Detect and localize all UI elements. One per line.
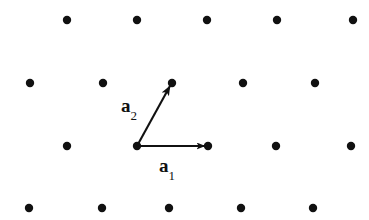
lattice-point <box>311 79 319 87</box>
lattice-point <box>204 142 212 150</box>
lattice-point <box>25 204 33 212</box>
lattice-point <box>349 16 357 24</box>
lattice-point <box>239 79 247 87</box>
vector-label-a1-symbol: a <box>159 155 169 176</box>
vector-label-a2-subscript: 2 <box>131 108 138 123</box>
lattice-point <box>237 204 245 212</box>
lattice-point <box>63 16 71 24</box>
vector-label-a2-symbol: a <box>121 95 131 116</box>
vector-label-a2: a2 <box>121 96 137 119</box>
lattice-figure: a2 a1 <box>0 0 369 220</box>
figure-background <box>0 0 369 220</box>
lattice-point <box>133 16 141 24</box>
lattice-point <box>309 204 317 212</box>
lattice-point <box>347 142 355 150</box>
lattice-point <box>99 79 107 87</box>
vector-label-a1-subscript: 1 <box>169 168 176 183</box>
lattice-point <box>203 16 211 24</box>
lattice-point <box>26 79 34 87</box>
lattice-point <box>165 204 173 212</box>
lattice-point <box>98 204 106 212</box>
lattice-point <box>273 16 281 24</box>
lattice-canvas <box>0 0 369 220</box>
vector-label-a1: a1 <box>159 156 175 179</box>
lattice-point <box>272 142 280 150</box>
lattice-point <box>63 142 71 150</box>
